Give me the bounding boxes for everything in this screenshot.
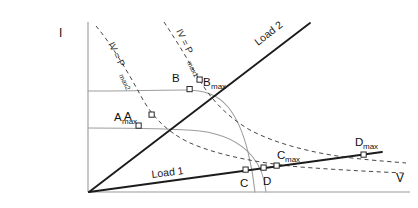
load-2-label: Load 2	[252, 18, 285, 47]
iv-characteristic-diagram: I V A A max B B max C D C max D max Load…	[0, 0, 418, 208]
point-label-bmax-sub: max	[211, 82, 226, 91]
point-label-amax-sub: max	[122, 117, 137, 126]
point-label-b: B	[172, 72, 180, 84]
load-lines-group	[89, 23, 382, 192]
power-2-label: IV = P max2	[104, 40, 139, 91]
point-marker-dmax	[361, 152, 366, 157]
point-marker-cmax	[274, 163, 279, 168]
point-label-amax-main: A	[114, 111, 122, 123]
y-axis-label: I	[59, 26, 62, 40]
point-marker-d	[261, 165, 266, 170]
power-1-label: IV = P max1	[172, 27, 207, 78]
power-1-label-sub: max1	[186, 60, 200, 79]
point-marker-bmax	[197, 77, 202, 82]
point-label-bmax-main: B	[203, 76, 211, 88]
point-label-cmax: C max	[277, 149, 300, 164]
diagram-canvas: I V A A max B B max C D C max D max Load…	[0, 0, 418, 208]
point-marker-b	[187, 87, 192, 92]
power-2-label-main: IV = P	[106, 40, 127, 68]
point-label-dmax: D max	[355, 136, 378, 151]
point-label-cmax-sub: max	[285, 155, 300, 164]
point-label-c: C	[240, 177, 248, 189]
load-1-label: Load 1	[151, 164, 184, 180]
x-axis-label: V	[396, 171, 404, 185]
power-2-label-sub: max2	[118, 73, 132, 92]
point-label-d: D	[263, 175, 271, 187]
point-marker-c	[243, 167, 248, 172]
point-label-bmax: B max	[203, 76, 226, 91]
power-1-label-main: IV = P	[174, 27, 195, 55]
point-marker-amax	[149, 112, 154, 117]
axes-group	[88, 22, 410, 192]
point-label-dmax-sub: max	[363, 142, 378, 151]
